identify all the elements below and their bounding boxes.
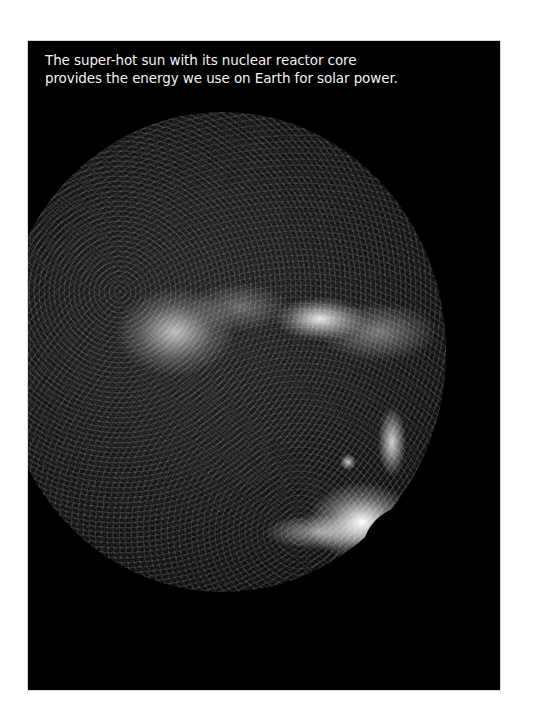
shadow-region xyxy=(363,501,500,621)
photo-panel: The super-hot sun with its nuclear react… xyxy=(28,41,500,690)
caption-line-1: The super-hot sun with its nuclear react… xyxy=(45,51,398,69)
caption-line-2: provides the energy we use on Earth for … xyxy=(45,69,398,87)
figure-caption: The super-hot sun with its nuclear react… xyxy=(45,51,398,87)
